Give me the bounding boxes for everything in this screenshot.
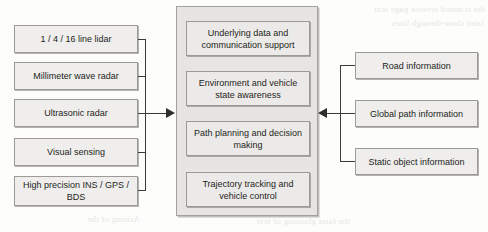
sensor-node-ins-gps-bds-label: High precision INS / GPS / BDS xyxy=(18,179,134,203)
prior-node-global-path-information-label: Global path information xyxy=(359,108,474,120)
scan-bleed-bottom-left: Arising of the xyxy=(20,214,140,225)
prior-node-static-object-information[interactable]: Static object information xyxy=(355,148,478,175)
sensor-node-millimeter-wave-radar-label: Millimeter wave radar xyxy=(18,70,134,82)
connector-stub-static-object xyxy=(340,161,355,162)
scan-bleed-top-right: the scanned reverse page text xyxy=(350,4,485,15)
sensor-node-ultrasonic-radar[interactable]: Ultrasonic radar xyxy=(14,99,138,127)
core-layer-trajectory-control[interactable]: Trajectory tracking and vehicle control xyxy=(186,172,310,207)
sensor-node-lidar[interactable]: 1 / 4 / 16 line lidar xyxy=(14,25,138,53)
connector-left-to-core xyxy=(145,113,167,114)
arrow-left-into-core xyxy=(166,108,175,118)
core-layer-path-planning[interactable]: Path planning and decision making xyxy=(186,121,310,156)
arrow-right-into-core xyxy=(318,108,327,118)
core-layer-path-planning-label: Path planning and decision making xyxy=(190,127,306,151)
prior-node-road-information[interactable]: Road information xyxy=(355,52,478,79)
figure-canvas: the scanned reverse page text faint show… xyxy=(0,0,488,232)
sensor-node-ins-gps-bds[interactable]: High precision INS / GPS / BDS xyxy=(14,176,138,206)
connector-stub-global-path xyxy=(340,113,355,114)
core-layer-environment-awareness-label: Environment and vehicle state awareness xyxy=(190,77,306,101)
connector-stub-road xyxy=(340,65,355,66)
core-layer-environment-awareness[interactable]: Environment and vehicle state awareness xyxy=(186,71,310,106)
core-layer-underlying-data-label: Underlying data and communication suppor… xyxy=(190,27,306,51)
scan-bleed-bottom-mid: the faint ghosting of text xyxy=(190,216,350,227)
scan-bleed-mid-right: faint show-through lines xyxy=(344,18,484,29)
prior-node-static-object-information-label: Static object information xyxy=(359,156,474,168)
sensor-node-visual-sensing-label: Visual sensing xyxy=(18,146,134,158)
sensor-node-visual-sensing[interactable]: Visual sensing xyxy=(14,138,138,166)
connector-right-to-core xyxy=(327,113,341,114)
connector-bus-left xyxy=(145,39,146,191)
prior-node-road-information-label: Road information xyxy=(359,60,474,72)
sensor-node-ultrasonic-radar-label: Ultrasonic radar xyxy=(18,107,134,119)
sensor-node-lidar-label: 1 / 4 / 16 line lidar xyxy=(18,33,134,45)
core-layer-trajectory-control-label: Trajectory tracking and vehicle control xyxy=(190,178,306,202)
prior-node-global-path-information[interactable]: Global path information xyxy=(355,100,478,127)
core-layer-underlying-data[interactable]: Underlying data and communication suppor… xyxy=(186,21,310,56)
sensor-node-millimeter-wave-radar[interactable]: Millimeter wave radar xyxy=(14,62,138,90)
